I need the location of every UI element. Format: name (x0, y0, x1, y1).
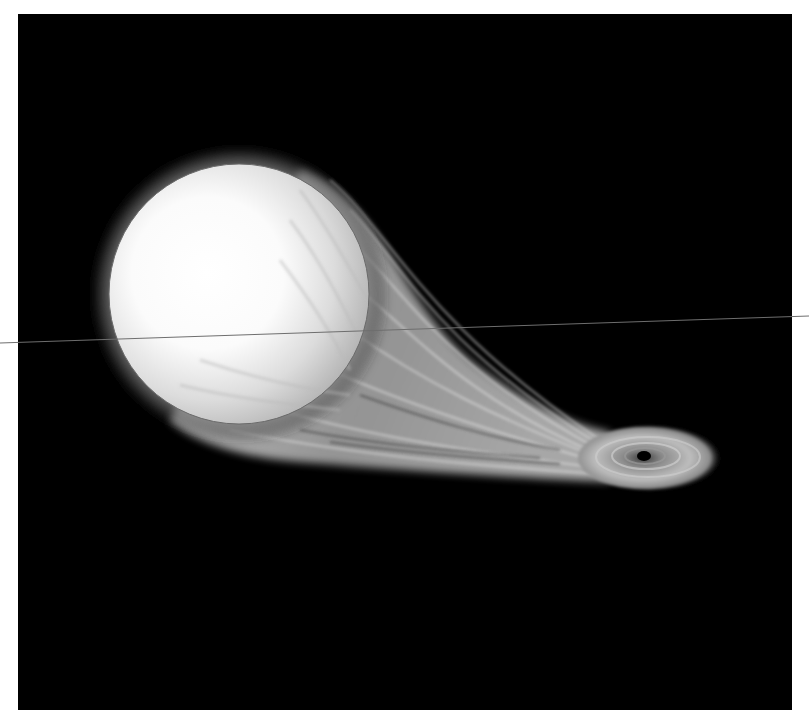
star (109, 164, 369, 424)
image-description: Artist illustration of a star being tida… (0, 0, 1, 1)
star-black-hole-illustration (0, 0, 809, 722)
black-hole (637, 451, 651, 461)
